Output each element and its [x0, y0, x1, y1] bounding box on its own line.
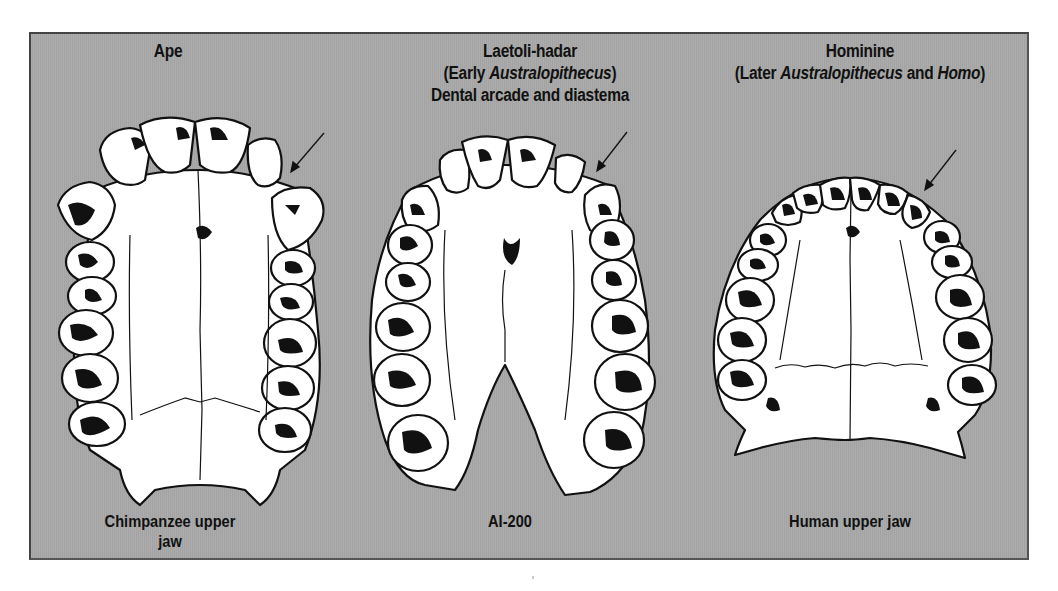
human-caption: Human upper jaw — [773, 512, 928, 532]
hominine-canine-arrow — [925, 150, 956, 190]
human-caption-text: Human upper jaw — [789, 512, 911, 531]
stray-mark — [532, 576, 534, 579]
human-jaw-illustration — [0, 0, 1058, 591]
